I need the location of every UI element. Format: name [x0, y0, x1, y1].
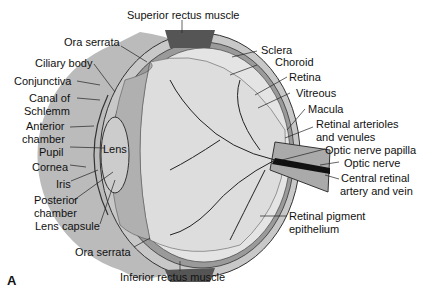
label-canal-of-schlemm-2: Schlemm — [24, 105, 70, 117]
label-canal-of-schlemm-1: Canal of — [29, 92, 70, 104]
label-central-retinal-2: artery and vein — [340, 185, 413, 197]
label-iris: Iris — [56, 178, 71, 190]
label-lens: Lens — [103, 143, 127, 155]
label-optic-nerve: Optic nerve — [344, 157, 400, 169]
label-ora-serrata-bottom: Ora serrata — [75, 246, 131, 258]
label-retinal-pigment-2: epithelium — [289, 223, 339, 235]
label-ora-serrata-top: Ora serrata — [64, 36, 120, 48]
label-sclera: Sclera — [261, 44, 292, 56]
label-anterior-chamber-1: Anterior — [26, 120, 65, 132]
label-anterior-chamber-2: chamber — [22, 133, 65, 145]
label-cornea: Cornea — [32, 161, 68, 173]
label-retinal-pigment-1: Retinal pigment — [289, 210, 365, 222]
figure-letter: A — [7, 273, 16, 288]
label-posterior-chamber-2: chamber — [34, 207, 77, 219]
label-macula: Macula — [308, 103, 343, 115]
label-retina: Retina — [289, 71, 321, 83]
label-posterior-chamber-1: Posterior — [34, 194, 78, 206]
label-conjunctiva: Conjunctiva — [14, 75, 71, 87]
label-superior-rectus-muscle: Superior rectus muscle — [127, 9, 240, 21]
label-retinal-arterioles-1: Retinal arterioles — [316, 118, 399, 130]
label-inferior-rectus-muscle: Inferior rectus muscle — [120, 271, 225, 283]
label-vitreous: Vitreous — [296, 87, 336, 99]
label-ciliary-body: Ciliary body — [35, 57, 92, 69]
label-optic-nerve-papilla: Optic nerve papilla — [325, 144, 416, 156]
label-retinal-arterioles-2: and venules — [316, 131, 375, 143]
label-lens-capsule: Lens capsule — [35, 220, 100, 232]
label-choroid: Choroid — [275, 56, 314, 68]
label-central-retinal-1: Central retinal — [341, 172, 409, 184]
label-pupil: Pupil — [39, 146, 63, 158]
